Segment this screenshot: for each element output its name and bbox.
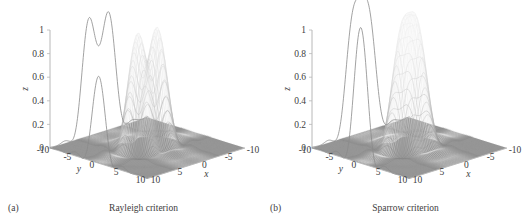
y-tick-label: 10: [136, 175, 146, 185]
panel-title-a: Rayleigh criterion: [0, 200, 261, 216]
z-tick-label: 0.2: [32, 120, 44, 130]
y-tick-label: -5: [63, 152, 71, 162]
x-tick-label: -10: [247, 145, 260, 155]
x-tick-label: 10: [151, 175, 161, 185]
x-tick-label: -10: [509, 145, 522, 155]
y-tick-label: -10: [299, 145, 312, 155]
x-tick-label: 10: [413, 175, 423, 185]
surface-plot-a: 00.20.40.60.81z-10-50510y1050-5-10x: [0, 0, 261, 221]
y-axis-label: y: [338, 164, 344, 174]
y-tick-label: 0: [351, 160, 356, 170]
z-tick-label: 0.6: [294, 72, 306, 82]
surface-plot-b: 00.20.40.60.81z-10-50510y1050-5-10x: [262, 0, 523, 221]
z-tick-label: 0.4: [294, 96, 306, 106]
panel-b: 00.20.40.60.81z-10-50510y1050-5-10x (b) …: [262, 0, 523, 221]
panel-title-b: Sparrow criterion: [262, 200, 523, 216]
x-tick-label: -5: [225, 152, 233, 162]
z-axis-label: z: [20, 87, 30, 92]
x-tick-label: 0: [464, 160, 469, 170]
y-tick-label: -10: [37, 145, 50, 155]
z-tick-label: 0.8: [294, 49, 306, 59]
y-tick-label: 10: [398, 175, 408, 185]
figure-container: 00.20.40.60.81z-10-50510y1050-5-10x (a) …: [0, 0, 523, 221]
y-tick-label: 0: [89, 160, 94, 170]
y-tick-label: -5: [325, 152, 333, 162]
panel-a: 00.20.40.60.81z-10-50510y1050-5-10x (a) …: [0, 0, 261, 221]
surface-mesh: [312, 12, 507, 179]
z-tick-label: 0.2: [294, 120, 306, 130]
z-tick-label: 0.6: [32, 72, 44, 82]
x-tick-label: 0: [202, 160, 207, 170]
x-axis-label: x: [203, 169, 209, 179]
x-tick-label: 5: [178, 167, 183, 177]
z-tick-label: 1: [39, 25, 44, 35]
z-tick-label: 1: [301, 25, 306, 35]
y-axis-label: y: [76, 164, 82, 174]
y-tick-label: 5: [376, 167, 381, 177]
z-tick-label: 0.4: [32, 96, 44, 106]
x-tick-label: -5: [487, 152, 495, 162]
z-axis-label: z: [282, 87, 292, 92]
y-tick-label: 5: [114, 167, 119, 177]
x-axis-label: x: [465, 169, 471, 179]
caption-row-a: (a) Rayleigh criterion: [0, 200, 261, 216]
z-tick-label: 0.8: [32, 49, 44, 59]
caption-row-b: (b) Sparrow criterion: [262, 200, 523, 216]
x-tick-label: 5: [440, 167, 445, 177]
